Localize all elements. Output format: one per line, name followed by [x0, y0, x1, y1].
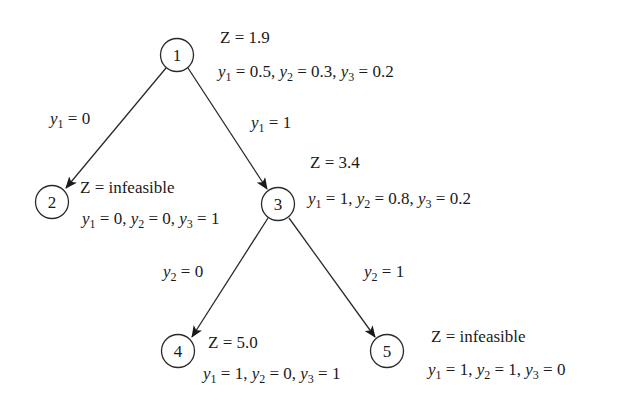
- edge-3-5: [289, 218, 375, 337]
- edge-label-3-4: y2 = 0: [161, 262, 203, 284]
- node-4-solution: y1 = 1, y2 = 0, y3 = 1: [201, 364, 340, 386]
- node-1-z-value: Z = 1.9: [220, 28, 270, 47]
- node-5-solution: y1 = 1, y2 = 1, y3 = 0: [426, 360, 565, 382]
- edge-label-1-3: y1 = 1: [249, 113, 291, 135]
- edge-1-2: [66, 68, 166, 188]
- branch-and-bound-tree: 1 2 3 4 5 y1 = 0 y1 = 1 y2 = 0 y2 = 1 Z …: [0, 0, 620, 411]
- node-2-label: 2: [48, 193, 57, 212]
- node-3: 3: [262, 188, 295, 221]
- node-5: 5: [371, 335, 404, 368]
- node-2-solution: y1 = 0, y2 = 0, y3 = 1: [80, 209, 219, 231]
- node-4-annotation: Z = 5.0 y1 = 1, y2 = 0, y3 = 1: [201, 333, 340, 386]
- node-2-annotation: Z = infeasible y1 = 0, y2 = 0, y3 = 1: [80, 178, 219, 231]
- node-2: 2: [36, 186, 69, 219]
- node-5-z-value: Z = infeasible: [431, 327, 526, 346]
- node-3-annotation: Z = 3.4 y1 = 1, y2 = 0.8, y3 = 0.2: [306, 153, 471, 211]
- node-4-z-value: Z = 5.0: [208, 333, 258, 352]
- node-4: 4: [162, 335, 195, 368]
- node-2-z-value: Z = infeasible: [80, 178, 175, 197]
- node-5-annotation: Z = infeasible y1 = 1, y2 = 1, y3 = 0: [426, 327, 565, 382]
- node-1-label: 1: [173, 46, 182, 65]
- edge-label-3-5: y2 = 1: [362, 262, 404, 284]
- node-4-label: 4: [174, 342, 183, 361]
- node-3-solution: y1 = 1, y2 = 0.8, y3 = 0.2: [306, 189, 471, 211]
- node-1-annotation: Z = 1.9 y1 = 0.5, y2 = 0.3, y3 = 0.2: [216, 28, 394, 84]
- node-3-label: 3: [274, 195, 283, 214]
- edge-3-4: [192, 218, 268, 337]
- edge-label-1-2: y1 = 0: [48, 109, 90, 131]
- node-3-z-value: Z = 3.4: [310, 153, 360, 172]
- node-5-label: 5: [383, 342, 392, 361]
- node-1: 1: [161, 39, 194, 72]
- node-1-solution: y1 = 0.5, y2 = 0.3, y3 = 0.2: [216, 62, 394, 84]
